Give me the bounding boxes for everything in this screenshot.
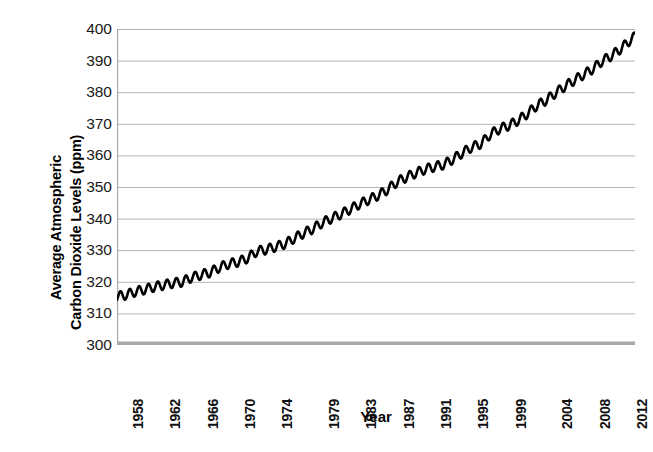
plot-svg: [117, 29, 635, 345]
x-axis-tick-label: 2012: [634, 399, 650, 429]
y-axis-tick-label: 330: [72, 242, 112, 258]
y-axis-tick-label: 390: [72, 53, 112, 69]
y-axis-tick-label: 360: [72, 147, 112, 163]
y-axis-tick-label: 340: [72, 211, 112, 227]
x-axis-tick-labels: 1958196219661970197419791983198719911995…: [117, 349, 637, 409]
plot-area: [117, 29, 635, 345]
co2-trend-line: [117, 33, 635, 300]
chart-figure: Average Atmospheric Carbon Dioxide Level…: [0, 0, 653, 452]
y-axis-title-line-1: Average Atmospheric: [48, 50, 64, 300]
y-axis-tick-label: 350: [72, 179, 112, 195]
y-axis-tick-label: 370: [72, 116, 112, 132]
y-axis-tick-label: 400: [72, 21, 112, 37]
y-axis-tick-labels: 400390380370360350340330320310300: [70, 0, 112, 452]
y-axis-tick-label: 310: [72, 305, 112, 321]
x-axis-title: Year: [117, 408, 635, 425]
y-axis-tick-label: 300: [72, 337, 112, 353]
y-axis-tick-label: 320: [72, 274, 112, 290]
y-axis-tick-label: 380: [72, 84, 112, 100]
